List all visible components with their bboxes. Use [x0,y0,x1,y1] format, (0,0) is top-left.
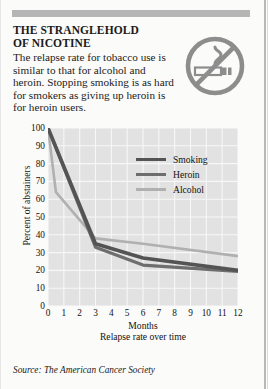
infographic-page: THE STRANGLEHOLD OF NICOTINE The relapse… [0,0,268,389]
y-tick-90: 90 [36,141,45,151]
x-tick-7: 7 [157,308,162,318]
legend-label-heroin: Heroin [173,169,200,180]
y-tick-20: 20 [36,265,45,275]
legend-label-smoking: Smoking [173,154,208,165]
x-axis-sublabel: Relapse rate over time [28,331,258,342]
y-tick-50: 50 [36,212,45,222]
article-blurb: The relapse rate for tobacco use is simi… [13,51,176,114]
legend-swatch-alcohol [136,188,166,191]
y-tick-70: 70 [36,176,45,186]
x-tick-12: 12 [233,308,242,318]
page-title-line-1: THE STRANGLEHOLD [13,24,139,36]
x-tick-6: 6 [141,308,146,318]
x-tick-1: 1 [62,308,67,318]
y-tick-100: 100 [31,123,45,133]
source-note: Source: The American Cancer Society [13,365,155,375]
x-tick-5: 5 [125,308,130,318]
y-tick-60: 60 [36,194,45,204]
x-tick-2: 2 [77,308,82,318]
no-smoking-icon [182,33,248,99]
x-tick-4: 4 [109,308,114,318]
plot-area: 0 10 20 30 40 50 60 70 80 90 100 0 1 2 3… [48,128,238,306]
y-tick-30: 30 [36,248,45,258]
x-tick-11: 11 [218,308,227,318]
x-axis-label: Months [48,320,238,331]
relapse-rate-chart: Percent of abstainers 0 10 20 30 40 50 6… [8,122,258,337]
x-tick-0: 0 [46,308,51,318]
y-tick-80: 80 [36,159,45,169]
legend-swatch-smoking [136,158,166,162]
y-axis-label: Percent of abstainers [21,140,32,272]
x-tick-3: 3 [93,308,98,318]
y-tick-10: 10 [36,283,45,293]
page-border-right [264,0,266,389]
x-tick-9: 9 [188,308,193,318]
page-border-left [0,0,1,389]
legend-item-alcohol: Alcohol [136,182,208,197]
x-tick-8: 8 [172,308,177,318]
y-tick-40: 40 [36,230,45,240]
page-border-right-outer [267,0,268,389]
legend-item-smoking: Smoking [136,152,208,167]
top-rule-bar [12,10,250,17]
legend-swatch-heroin [136,173,166,176]
x-tick-10: 10 [202,308,211,318]
y-tick-0: 0 [40,301,45,311]
page-title-line-2: OF NICOTINE [13,37,91,49]
legend-item-heroin: Heroin [136,167,208,182]
chart-legend: Smoking Heroin Alcohol [136,152,208,197]
legend-label-alcohol: Alcohol [173,184,204,195]
page-title: THE STRANGLEHOLD OF NICOTINE [13,24,173,49]
